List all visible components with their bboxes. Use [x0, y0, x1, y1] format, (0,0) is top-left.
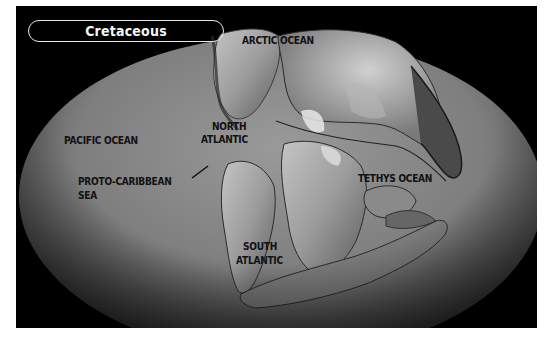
label-north-atlantic-line2: ATLANTIC — [201, 133, 248, 145]
period-title-pill: Cretaceous — [28, 20, 224, 42]
label-south-atlantic-line1: SOUTH — [243, 240, 277, 252]
label-arctic-ocean: ARCTIC OCEAN — [242, 34, 314, 46]
label-north-atlantic-line1: NORTH — [212, 120, 246, 132]
label-pacific-ocean: PACIFIC OCEAN — [64, 134, 138, 146]
world-map — [16, 6, 537, 328]
label-south-atlantic-line2: ATLANTIC — [236, 254, 283, 266]
period-title: Cretaceous — [85, 23, 167, 39]
map-frame: Cretaceous ARCTIC OCEAN PACIFIC OCEAN NO… — [16, 6, 537, 328]
label-proto-caribbean-line2: SEA — [78, 189, 97, 201]
label-tethys-ocean: TETHYS OCEAN — [358, 172, 432, 184]
label-proto-caribbean-line1: PROTO-CARIBBEAN — [78, 175, 172, 187]
